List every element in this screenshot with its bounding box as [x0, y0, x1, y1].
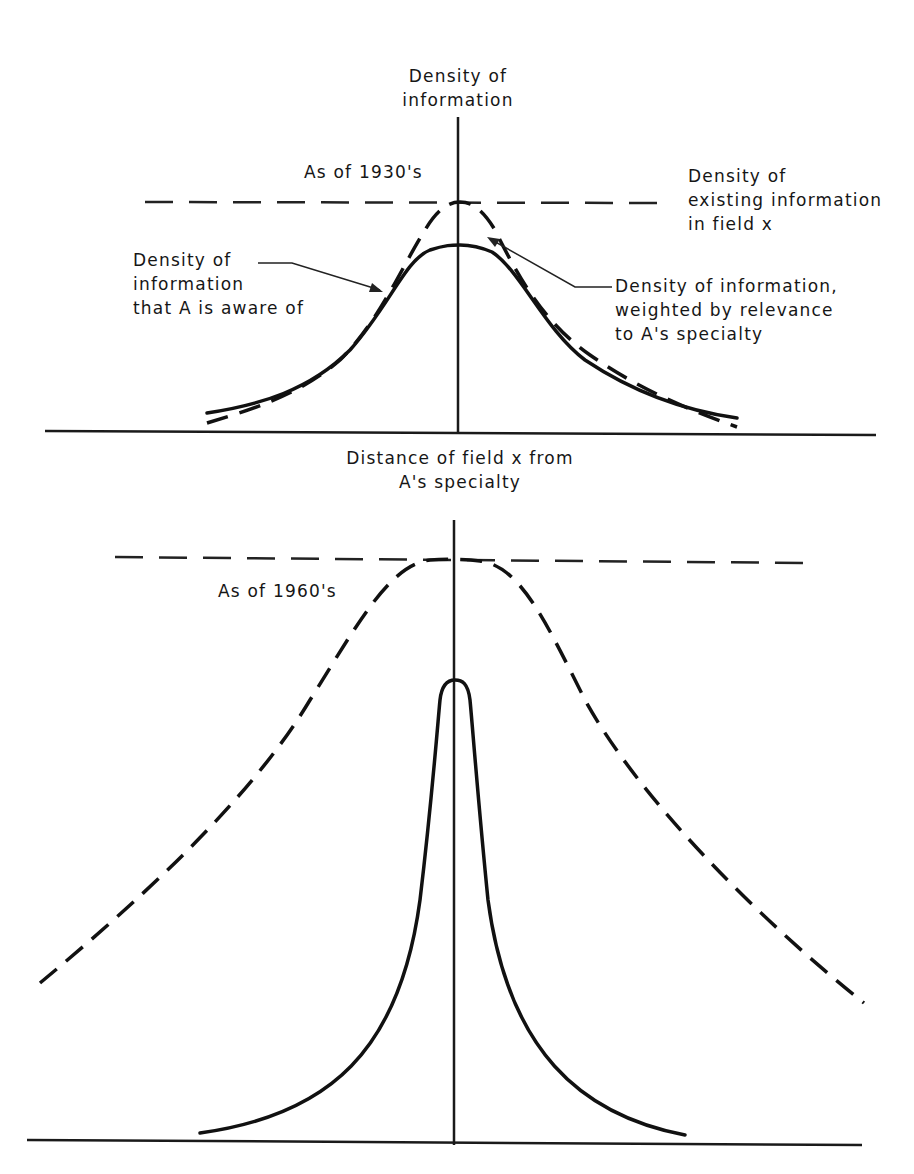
existing-info-label-line-2: existing information	[688, 188, 882, 212]
top-x-axis	[45, 431, 876, 435]
x-axis-label-line-1: Distance of field x from	[300, 446, 620, 470]
x-axis-label: Distance of field x from A's specialty	[300, 446, 620, 494]
y-axis-label: Density of information	[378, 64, 538, 112]
aware-arrowhead-icon	[369, 283, 383, 292]
y-axis-label-line-1: Density of	[378, 64, 538, 88]
weighted-leader-line	[492, 240, 612, 287]
bottom-x-axis	[27, 1140, 862, 1145]
existing-info-label-line-3: in field x	[688, 212, 882, 236]
weighted-arrowhead-icon	[487, 237, 500, 247]
existing-info-label: Density of existing information in field…	[688, 164, 882, 236]
weighted-info-label: Density of information, weighted by rele…	[615, 274, 838, 346]
period-label-1930s: As of 1930's	[304, 160, 423, 184]
period-label-1960s: As of 1960's	[218, 579, 337, 603]
aware-info-label-line-2: information	[133, 272, 304, 296]
weighted-info-label-line-3: to A's specialty	[615, 322, 838, 346]
weighted-info-label-line-2: weighted by relevance	[615, 298, 838, 322]
weighted-info-label-line-1: Density of information,	[615, 274, 838, 298]
bottom-weighted-density-curve	[40, 559, 864, 1003]
bottom-aware-density-curve	[200, 680, 685, 1135]
y-axis-label-line-2: information	[378, 88, 538, 112]
aware-info-label-line-1: Density of	[133, 248, 304, 272]
top-existing-info-line	[145, 202, 672, 203]
bottom-existing-info-line	[115, 557, 805, 563]
aware-info-label-line-3: that A is aware of	[133, 296, 304, 320]
x-axis-label-line-2: A's specialty	[300, 470, 620, 494]
existing-info-label-line-1: Density of	[688, 164, 882, 188]
bottom-panel	[27, 520, 864, 1145]
aware-info-label: Density of information that A is aware o…	[133, 248, 304, 320]
